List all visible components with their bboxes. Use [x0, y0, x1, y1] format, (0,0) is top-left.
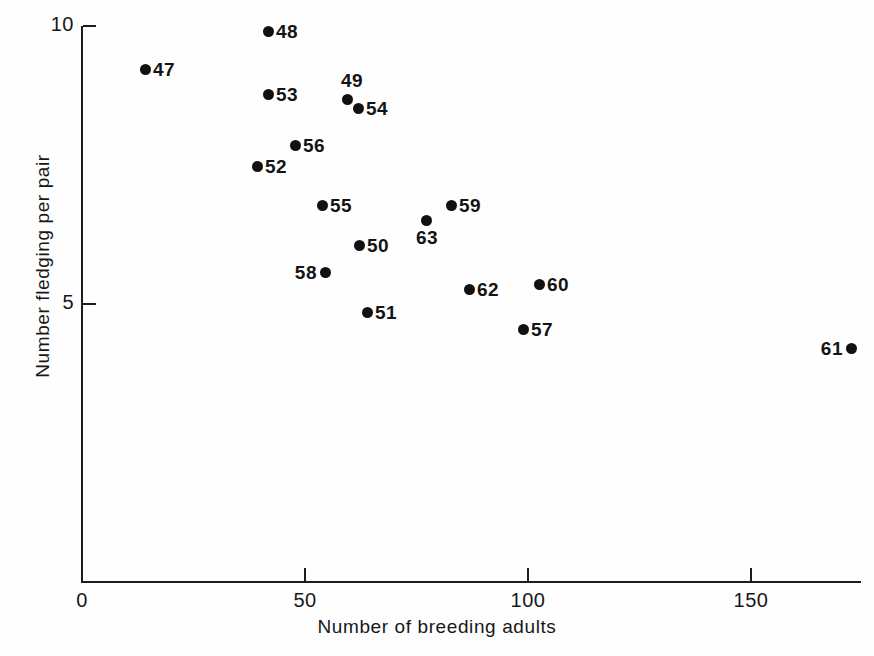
data-point-marker	[846, 343, 857, 354]
data-point-label: 48	[276, 22, 298, 41]
data-point-label: 59	[459, 196, 481, 215]
x-axis-tick-label: 50	[270, 589, 340, 612]
data-point-marker	[362, 307, 373, 318]
data-point-marker	[446, 200, 457, 211]
x-axis-title: Number of breeding adults	[0, 616, 874, 638]
scatter-plot-figure: 510050100150 474853495456525559635058606…	[0, 0, 874, 656]
data-point-label: 47	[153, 60, 175, 79]
data-point-label: 52	[265, 157, 287, 176]
data-point-marker	[353, 103, 364, 114]
x-axis-tick	[750, 568, 752, 582]
data-point-label: 58	[295, 263, 317, 282]
y-axis-title: Number fledging per pair	[32, 116, 54, 416]
data-point-label: 61	[821, 339, 843, 358]
data-point-marker	[518, 324, 529, 335]
data-point-label: 49	[341, 71, 363, 90]
x-axis-tick	[527, 568, 529, 582]
data-point-marker	[252, 161, 263, 172]
x-axis-tick-label: 150	[716, 589, 786, 612]
data-point-label: 57	[531, 320, 553, 339]
data-point-label: 63	[416, 228, 438, 247]
x-axis-tick-label: 100	[493, 589, 563, 612]
y-axis-tick	[83, 25, 96, 27]
data-point-marker	[140, 64, 151, 75]
data-point-marker	[317, 200, 328, 211]
data-point-marker	[464, 284, 475, 295]
data-point-marker	[320, 267, 331, 278]
data-point-marker	[290, 140, 301, 151]
data-point-label: 54	[366, 99, 388, 118]
y-axis-tick-label: 10	[26, 13, 74, 36]
data-point-marker	[354, 240, 365, 251]
x-axis-tick	[304, 568, 306, 582]
data-point-label: 60	[547, 275, 569, 294]
data-point-marker	[263, 89, 274, 100]
y-axis-tick	[83, 303, 96, 305]
data-point-label: 50	[367, 236, 389, 255]
data-point-label: 55	[330, 196, 352, 215]
data-point-marker	[263, 26, 274, 37]
data-point-label: 62	[477, 280, 499, 299]
data-point-marker	[421, 215, 432, 226]
x-axis-tick-label: 0	[47, 589, 117, 612]
data-point-marker	[534, 279, 545, 290]
data-point-label: 53	[276, 85, 298, 104]
x-axis-line	[81, 581, 861, 583]
data-point-marker	[342, 94, 353, 105]
data-point-label: 56	[303, 136, 325, 155]
data-point-label: 51	[375, 303, 397, 322]
